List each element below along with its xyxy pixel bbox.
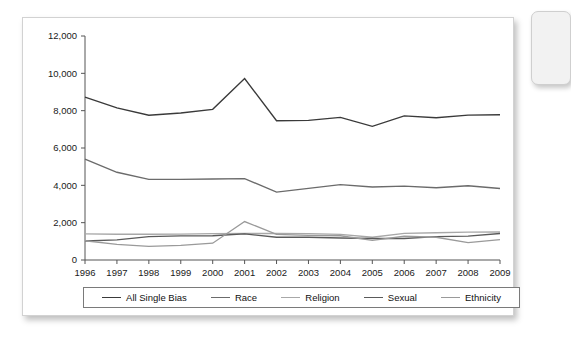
y-tick-label: 12,000: [48, 30, 77, 41]
chart-legend: All Single BiasRaceReligionSexualEthnici…: [83, 287, 520, 308]
chart-card: 02,0004,0006,0008,00010,00012,000 199619…: [22, 17, 514, 316]
legend-label: Religion: [305, 292, 339, 303]
y-axis: 02,0004,0006,0008,00010,00012,000: [48, 30, 85, 265]
adjacent-partial-card: [531, 11, 571, 85]
y-tick-label: 2,000: [53, 217, 77, 228]
series-lines: [85, 79, 500, 247]
legend-swatch-icon: [441, 297, 460, 298]
x-tick-label: 1998: [138, 267, 159, 278]
line-chart: 02,0004,0006,0008,00010,00012,000 199619…: [23, 18, 515, 317]
x-tick-label: 2007: [426, 267, 447, 278]
legend-label: Ethnicity: [465, 292, 501, 303]
y-tick-label: 8,000: [53, 105, 77, 116]
legend-item-sexual[interactable]: Sexual: [364, 292, 417, 303]
x-tick-label: 1997: [106, 267, 127, 278]
x-tick-label: 2008: [458, 267, 479, 278]
x-tick-label: 2000: [202, 267, 223, 278]
legend-swatch-icon: [102, 297, 121, 298]
y-tick-label: 10,000: [48, 68, 77, 79]
x-tick-label: 2003: [298, 267, 319, 278]
legend-item-all-single-bias[interactable]: All Single Bias: [102, 292, 187, 303]
x-axis: 1996199719981999200020012002200320042005…: [74, 260, 510, 278]
legend-label: Race: [235, 292, 257, 303]
legend-swatch-icon: [364, 297, 383, 298]
series-line-race: [85, 159, 500, 192]
chart-svg: 02,0004,0006,0008,00010,00012,000 199619…: [23, 18, 515, 317]
x-tick-label: 1999: [170, 267, 191, 278]
legend-label: Sexual: [388, 292, 417, 303]
y-tick-label: 4,000: [53, 180, 77, 191]
legend-item-race[interactable]: Race: [211, 292, 257, 303]
x-tick-label: 1996: [74, 267, 95, 278]
legend-swatch-icon: [281, 297, 300, 298]
x-tick-label: 2001: [234, 267, 255, 278]
legend-label: All Single Bias: [126, 292, 187, 303]
x-tick-label: 2002: [266, 267, 287, 278]
x-tick-label: 2009: [489, 267, 510, 278]
legend-item-ethnicity[interactable]: Ethnicity: [441, 292, 501, 303]
legend-item-religion[interactable]: Religion: [281, 292, 339, 303]
x-tick-label: 2004: [330, 267, 351, 278]
legend-swatch-icon: [211, 297, 230, 298]
series-line-all-single-bias: [85, 79, 500, 127]
y-tick-label: 6,000: [53, 142, 77, 153]
x-tick-label: 2006: [394, 267, 415, 278]
x-tick-label: 2005: [362, 267, 383, 278]
y-tick-label: 0: [72, 254, 77, 265]
